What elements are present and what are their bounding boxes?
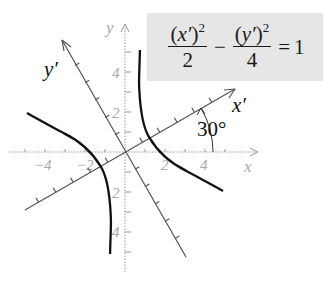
y-prime-var: y′ — [242, 22, 256, 46]
exponent: 2 — [263, 20, 270, 35]
x-axis — [8, 148, 258, 156]
x-tick-label: 4 — [200, 157, 208, 173]
y-tick-label: 2 — [112, 185, 120, 201]
minus-sign: − — [214, 35, 226, 60]
denominator: 4 — [247, 47, 258, 73]
equals-sign: = — [278, 35, 290, 60]
x-tick-label: −4 — [34, 157, 52, 173]
exponent: 2 — [198, 20, 205, 35]
hyperbola-left-branch — [27, 113, 111, 254]
denominator: 2 — [182, 47, 193, 73]
y-tick-label: 2 — [112, 105, 120, 121]
y-axis-label: y — [104, 18, 114, 37]
x-axis-label: x — [243, 157, 252, 176]
rhs-value: 1 — [294, 35, 305, 60]
angle-label: 30° — [197, 117, 226, 141]
x-prime-var: x′ — [177, 22, 191, 46]
y-tick-label: 4 — [112, 65, 120, 81]
fraction-y-prime: (y′)2 4 — [233, 22, 271, 73]
equation-box: (x′)2 2 − (y′)2 4 = 1 — [147, 13, 323, 81]
y-tick-label: 4 — [112, 224, 120, 240]
y-axis — [121, 24, 131, 272]
x-prime-label: x′ — [231, 93, 246, 117]
fraction-x-prime: (x′)2 2 — [168, 22, 206, 73]
x-tick-label: −2 — [76, 157, 94, 173]
y-prime-label: y′ — [42, 57, 58, 81]
